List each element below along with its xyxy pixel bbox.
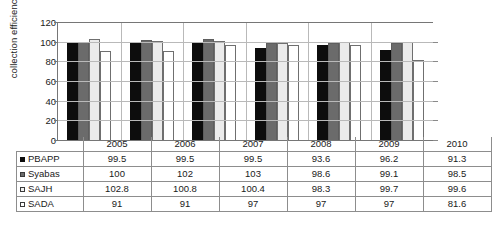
bar-pbapp-2005: [67, 42, 78, 140]
series-marker-pbapp-icon: [20, 157, 25, 162]
series-label: Syabas: [28, 168, 60, 179]
table-row: SAJH102.8100.8100.498.399.799.6: [17, 182, 492, 197]
cell-pbapp-2009: 96.2: [355, 152, 423, 167]
series-label: SAJH: [28, 183, 52, 194]
y-axis-tick-100: [54, 42, 58, 43]
x-axis-category-label-2010: 2010: [423, 137, 491, 152]
cell-syabas-2009: 99.1: [355, 167, 423, 182]
x-axis-category-label-2009: 2009: [355, 137, 423, 152]
right-tick-100: [433, 42, 438, 43]
y-axis-tick-120: [54, 22, 58, 23]
legend-item-syabas: Syabas: [17, 167, 84, 182]
cell-syabas-2010: 98.5: [423, 167, 491, 182]
bar-syabas-2008: [266, 43, 277, 140]
legend-item-sajh: SAJH: [17, 182, 84, 197]
cell-pbapp-2008: 93.6: [287, 152, 355, 167]
y-axis-tick-labels: 020406080100120: [30, 0, 56, 152]
cell-sajh-2007: 100.4: [219, 182, 287, 197]
bar-pbapp-2010: [380, 50, 391, 140]
cell-pbapp-2006: 99.5: [151, 152, 219, 167]
bar-pbapp-2006: [130, 42, 141, 140]
gridline-40: [58, 101, 433, 102]
cell-sajh-2009: 99.7: [355, 182, 423, 197]
bar-sada-2008: [288, 45, 299, 140]
x-axis-category-label-2008: 2008: [287, 137, 355, 152]
cell-pbapp-2005: 99.5: [83, 152, 151, 167]
y-axis-tick-40: [54, 101, 58, 102]
bar-syabas-2010: [391, 43, 402, 140]
cell-sada-2006: 91: [151, 197, 219, 212]
x-axis-category-label-2005: 2005: [83, 137, 151, 152]
series-marker-sada-icon: [20, 202, 25, 207]
bar-syabas-2005: [78, 42, 89, 140]
data-table: 200520062007200820092010PBAPP99.599.599.…: [16, 137, 492, 212]
cell-pbapp-2010: 91.3: [423, 152, 491, 167]
cell-sajh-2006: 100.8: [151, 182, 219, 197]
bar-syabas-2006: [141, 40, 152, 140]
cell-sada-2009: 97: [355, 197, 423, 212]
y-axis-tick-60: [54, 81, 58, 82]
right-axis-ticks: [433, 22, 438, 140]
table-row: PBAPP99.599.599.593.696.291.3: [17, 152, 492, 167]
legend-item-sada: SADA: [17, 197, 84, 212]
cell-syabas-2008: 98.6: [287, 167, 355, 182]
bar-sada-2009: [350, 45, 361, 140]
bar-syabas-2007: [203, 39, 214, 140]
gridline-60: [58, 81, 433, 82]
y-axis-tick-80: [54, 61, 58, 62]
bar-sada-2007: [225, 45, 236, 140]
cell-syabas-2007: 103: [219, 167, 287, 182]
bar-sajh-2008: [277, 43, 288, 140]
y-axis-title: collection efficiency (%): [8, 0, 19, 89]
bar-sajh-2007: [214, 41, 225, 140]
cell-pbapp-2007: 99.5: [219, 152, 287, 167]
right-tick-80: [433, 61, 438, 62]
table-corner-cell: [17, 137, 84, 152]
bar-sada-2006: [163, 51, 174, 140]
gridline-100: [58, 42, 433, 43]
table-row: Syabas10010210398.699.198.5: [17, 167, 492, 182]
bar-sajh-2005: [89, 39, 100, 140]
x-axis-category-label-2007: 2007: [219, 137, 287, 152]
gridline-120: [58, 22, 433, 23]
bar-pbapp-2009: [317, 45, 328, 140]
bar-sajh-2010: [402, 42, 413, 140]
legend-item-pbapp: PBAPP: [17, 152, 84, 167]
cell-sajh-2010: 99.6: [423, 182, 491, 197]
series-marker-syabas-icon: [20, 172, 25, 177]
cell-sajh-2005: 102.8: [83, 182, 151, 197]
right-tick-20: [433, 120, 438, 121]
cell-sada-2007: 97: [219, 197, 287, 212]
right-tick-60: [433, 81, 438, 82]
bar-chart: collection efficiency (%) 02040608010012…: [0, 0, 477, 152]
table-row: SADA919197979781.6: [17, 197, 492, 212]
bar-sada-2005: [100, 51, 111, 140]
bar-pbapp-2007: [192, 42, 203, 140]
bar-sajh-2006: [152, 41, 163, 140]
plot-area: [57, 22, 433, 140]
series-label: PBAPP: [28, 153, 60, 164]
cell-syabas-2005: 100: [83, 167, 151, 182]
bar-sajh-2009: [339, 42, 350, 140]
table-header-row: 200520062007200820092010: [17, 137, 492, 152]
cell-syabas-2006: 102: [151, 167, 219, 182]
series-marker-sajh-icon: [20, 187, 25, 192]
y-axis-tick-20: [54, 120, 58, 121]
gridline-20: [58, 120, 433, 121]
cell-sajh-2008: 98.3: [287, 182, 355, 197]
bar-syabas-2009: [328, 43, 339, 140]
cell-sada-2008: 97: [287, 197, 355, 212]
cell-sada-2005: 91: [83, 197, 151, 212]
gridline-80: [58, 61, 433, 62]
right-tick-40: [433, 101, 438, 102]
x-axis-category-label-2006: 2006: [151, 137, 219, 152]
series-label: SADA: [28, 198, 54, 209]
cell-sada-2010: 81.6: [423, 197, 491, 212]
